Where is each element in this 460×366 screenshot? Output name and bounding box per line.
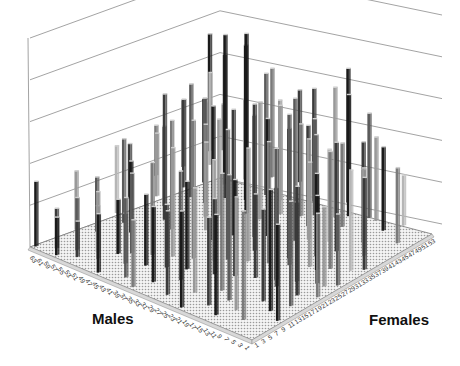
bar-side — [154, 206, 156, 281]
bar-top — [96, 191, 100, 192]
bar-top — [313, 118, 317, 119]
females-tick: 1 — [253, 341, 260, 349]
bar-top — [226, 129, 230, 130]
gridline — [30, 0, 442, 38]
bar — [124, 198, 127, 277]
bar-side — [377, 137, 379, 221]
bar-side — [292, 201, 294, 306]
bar — [262, 209, 265, 301]
bar-side — [249, 148, 251, 261]
bar-side — [127, 197, 129, 276]
bar — [207, 218, 210, 306]
bar-top — [124, 197, 128, 198]
bar-top — [208, 72, 212, 73]
bar — [220, 174, 223, 291]
bar-top — [166, 210, 170, 211]
bar-top — [97, 213, 101, 214]
females-tick: 9 — [280, 325, 287, 333]
bar — [171, 148, 174, 257]
bar-top — [362, 141, 366, 142]
bar-side — [58, 217, 60, 255]
bar-top — [312, 88, 316, 89]
bar-top — [267, 141, 271, 142]
bar-side — [271, 189, 273, 310]
bar-side — [223, 173, 225, 290]
bar-top — [314, 134, 318, 135]
bar-top — [152, 206, 156, 207]
bar-side — [119, 199, 121, 253]
bar-top — [276, 224, 280, 225]
bar — [185, 182, 188, 270]
bar — [396, 168, 399, 243]
females-tick: 5 — [266, 333, 273, 341]
bar-top — [402, 174, 406, 175]
bar — [214, 215, 217, 315]
bar-top — [349, 169, 353, 170]
bar-top — [269, 189, 273, 190]
bar-top — [128, 143, 132, 144]
bar-side — [398, 168, 400, 243]
bar — [402, 176, 405, 226]
bar-top — [208, 33, 212, 34]
bar-top — [322, 206, 326, 207]
bar — [322, 207, 325, 286]
bar-top — [217, 118, 221, 119]
bar-top — [347, 94, 351, 95]
females-axis-title: Females — [369, 311, 429, 328]
bar-side — [99, 214, 101, 273]
bar — [246, 149, 249, 262]
bar — [235, 197, 238, 310]
bar-top — [244, 33, 248, 34]
gridline — [30, 11, 442, 80]
bar-top — [163, 93, 167, 94]
bar-side — [134, 220, 136, 287]
bar-top — [307, 138, 311, 139]
bar-top — [223, 34, 227, 35]
bar-side — [352, 170, 354, 270]
bar-top — [115, 145, 119, 146]
bar-top — [155, 132, 159, 133]
bar-top — [270, 68, 274, 69]
bar-top — [211, 105, 215, 106]
bar — [116, 200, 119, 254]
bar-side — [244, 211, 246, 320]
bar-top — [151, 162, 155, 163]
bar-side — [168, 211, 170, 295]
bar-top — [279, 105, 283, 106]
bar — [295, 187, 298, 296]
bar-top — [170, 120, 174, 121]
bar-top — [34, 181, 38, 182]
bar-top — [189, 83, 193, 84]
bar-top — [207, 217, 211, 218]
bar-top — [75, 197, 79, 198]
bar — [152, 207, 155, 282]
bar-top — [242, 210, 246, 211]
bar-top — [180, 210, 184, 211]
bar-top — [306, 125, 310, 126]
bar-top — [396, 167, 400, 168]
bar-top — [315, 173, 319, 174]
bar-top — [333, 86, 337, 87]
bar — [289, 202, 292, 306]
bar-top — [316, 213, 320, 214]
bar-side — [311, 162, 313, 266]
bar-top — [95, 176, 99, 177]
bar — [367, 114, 370, 219]
bar-top — [258, 101, 262, 102]
bar-top — [235, 196, 239, 197]
bar-top — [182, 98, 186, 99]
bar-top — [179, 170, 183, 171]
bar-top — [165, 204, 169, 205]
bar-top — [193, 187, 197, 188]
bar — [269, 190, 272, 311]
bar-side — [365, 177, 367, 269]
bar-top — [293, 97, 297, 98]
bar-top — [374, 136, 378, 137]
bar-side — [165, 94, 167, 219]
males-axis-title: Males — [92, 310, 134, 327]
bar-top — [144, 193, 148, 194]
bar-top — [203, 97, 207, 98]
bar-side — [188, 181, 190, 269]
bar-top — [275, 148, 279, 149]
bar-top — [363, 177, 367, 178]
